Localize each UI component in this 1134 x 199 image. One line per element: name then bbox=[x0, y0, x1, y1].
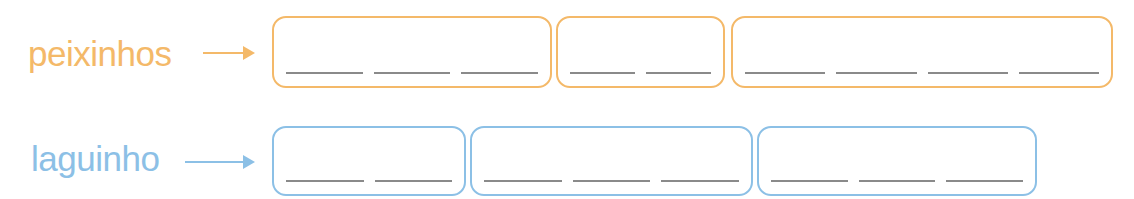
letter-blank[interactable] bbox=[286, 180, 364, 182]
letter-blank[interactable] bbox=[375, 180, 453, 182]
syllable-box-2[interactable] bbox=[556, 16, 725, 88]
word-label: laguinho bbox=[31, 141, 159, 176]
letter-blank[interactable] bbox=[461, 72, 538, 74]
word-label: peixinhos bbox=[28, 36, 171, 71]
letter-blank[interactable] bbox=[484, 180, 562, 182]
letter-blank[interactable] bbox=[646, 72, 711, 74]
syllable-box-3[interactable] bbox=[731, 16, 1113, 88]
letter-blank[interactable] bbox=[771, 180, 848, 182]
letter-blank[interactable] bbox=[859, 180, 936, 182]
letter-blank[interactable] bbox=[661, 180, 739, 182]
letter-blank[interactable] bbox=[286, 72, 363, 74]
arrow-right-icon bbox=[203, 52, 253, 54]
letter-blank[interactable] bbox=[573, 180, 651, 182]
letter-blank[interactable] bbox=[1019, 72, 1099, 74]
syllable-box-1[interactable] bbox=[272, 16, 552, 88]
syllable-box-3[interactable] bbox=[757, 126, 1037, 196]
letter-blank[interactable] bbox=[946, 180, 1023, 182]
letter-blank[interactable] bbox=[570, 72, 635, 74]
letter-blank[interactable] bbox=[928, 72, 1008, 74]
arrow-right-icon bbox=[185, 161, 253, 163]
syllable-box-1[interactable] bbox=[272, 126, 466, 196]
letter-blank[interactable] bbox=[745, 72, 825, 74]
letter-blank[interactable] bbox=[374, 72, 451, 74]
letter-blank[interactable] bbox=[836, 72, 916, 74]
syllable-box-2[interactable] bbox=[470, 126, 753, 196]
